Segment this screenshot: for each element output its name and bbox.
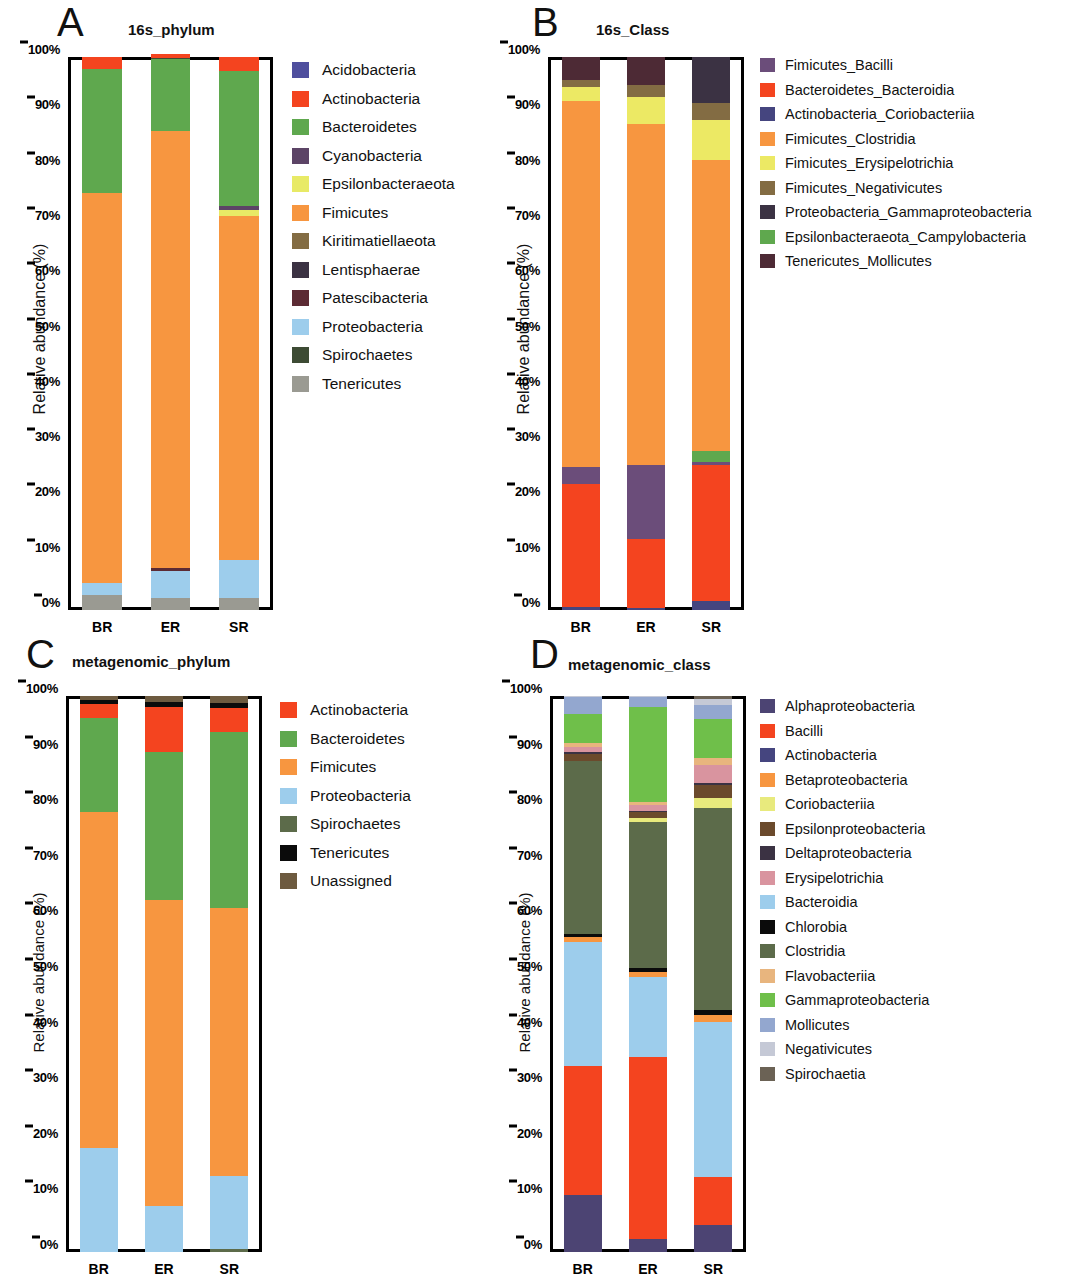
y-tick-mark — [507, 372, 515, 375]
bar-segment — [692, 57, 730, 103]
legend-swatch-icon — [760, 920, 775, 934]
legend-label: Spirochaetes — [322, 346, 412, 364]
y-tick-mark — [509, 958, 517, 961]
y-tick-label: 50% — [33, 959, 66, 974]
bar-segment — [562, 607, 600, 610]
bar-segment — [692, 601, 730, 610]
y-tick-label: 20% — [33, 1125, 66, 1140]
y-tick-mark — [509, 791, 517, 794]
bar-segment — [629, 968, 667, 971]
legend-item: Fimicutes_Clostridia — [760, 127, 1032, 152]
legend-swatch-icon — [280, 759, 297, 775]
y-tick-label: 70% — [517, 847, 550, 862]
x-axis-label-er: ER — [615, 1261, 680, 1277]
legend-label: Betaproteobacteria — [785, 772, 908, 788]
y-tick-label: 60% — [517, 903, 550, 918]
bar-segment — [151, 131, 191, 568]
legend-label: Proteobacteria — [322, 318, 423, 336]
legend-swatch-icon — [292, 319, 309, 335]
legend-swatch-icon — [760, 846, 775, 860]
legend-label: Coriobacteriia — [785, 796, 874, 812]
legend-item: Proteobacteria — [292, 313, 455, 342]
bar-segment — [219, 598, 259, 610]
y-tick-label: 90% — [517, 736, 550, 751]
legend-label: Patescibacteria — [322, 289, 428, 307]
y-tick-mark — [18, 680, 26, 683]
bar-segment — [627, 57, 665, 85]
panel-d: D metagenomic_class Relative abundance (… — [490, 634, 1072, 1268]
bar-br — [562, 57, 600, 610]
y-tick-mark — [507, 151, 515, 154]
bar-segment — [694, 719, 732, 758]
y-tick-mark — [25, 791, 33, 794]
legend-swatch-icon — [292, 233, 309, 249]
bar-sr — [219, 57, 259, 610]
legend-label: Tenericutes — [322, 375, 401, 393]
legend-label: Negativicutes — [785, 1041, 872, 1057]
bar-segment — [629, 1239, 667, 1252]
bar-segment — [564, 754, 602, 761]
y-tick-mark — [500, 41, 508, 44]
bar-segment — [210, 696, 248, 703]
legend-swatch-icon — [760, 699, 775, 713]
y-tick-mark — [27, 483, 35, 486]
bar-segment — [145, 900, 183, 1207]
legend-item: Fimicutes_Erysipelotrichia — [760, 151, 1032, 176]
bar-segment — [692, 462, 730, 465]
legend-item: Gammaproteobacteria — [760, 988, 929, 1013]
legend-label: Bacilli — [785, 723, 823, 739]
legend-item: Spirochaetes — [280, 810, 411, 839]
legend-item: Bacteroidetes — [280, 725, 411, 754]
bar-segment — [627, 539, 665, 608]
y-tick-mark — [20, 41, 28, 44]
legend-item: Kiritimatiellaeota — [292, 227, 455, 256]
legend-label: Gammaproteobacteria — [785, 992, 929, 1008]
y-tick-mark — [509, 846, 517, 849]
bar-segment — [694, 758, 732, 765]
bar-segment — [219, 57, 259, 71]
bar-segment — [210, 732, 248, 909]
x-axis-label-er: ER — [136, 619, 204, 635]
bar-br — [80, 696, 118, 1252]
y-tick-label: 70% — [35, 207, 68, 222]
legend-item: Mollicutes — [760, 1013, 929, 1038]
bar-segment — [629, 818, 667, 822]
y-tick-label: 100% — [510, 681, 550, 696]
bar-segment — [564, 697, 602, 714]
bar-segment — [145, 707, 183, 753]
bar-segment — [627, 124, 665, 465]
legend-label: Lentisphaerae — [322, 261, 420, 279]
legend-item: Bacteroidia — [760, 890, 929, 915]
legend-swatch-icon — [292, 91, 309, 107]
bar-segment — [145, 1206, 183, 1252]
panel-c-bars — [66, 696, 262, 1252]
legend-swatch-icon — [760, 724, 775, 738]
y-tick-label: 10% — [517, 1181, 550, 1196]
legend-swatch-icon — [292, 119, 309, 135]
legend-swatch-icon — [280, 873, 297, 889]
y-tick-label: 80% — [35, 152, 68, 167]
legend-swatch-icon — [760, 969, 775, 983]
x-axis-label-br: BR — [550, 1261, 615, 1277]
y-tick-label: 50% — [35, 318, 68, 333]
panel-d-plot: 0%10%20%30%40%50%60%70%80%90%100% BRERSR — [550, 696, 746, 1252]
panel-a-plot: 0%10%20%30%40%50%60%70%80%90%100% BRERSR — [68, 57, 273, 610]
y-tick-mark — [27, 262, 35, 265]
bar-segment — [694, 1015, 732, 1022]
bar-segment — [629, 977, 667, 1058]
legend-item: Tenericutes_Mollicutes — [760, 249, 1032, 274]
bar-segment — [145, 696, 183, 702]
panel-c-legend: ActinobacteriaBacteroidetesFimicutesProt… — [280, 696, 411, 896]
legend-swatch-icon — [760, 748, 775, 762]
bar-segment — [219, 206, 259, 209]
bar-segment — [692, 465, 730, 601]
legend-swatch-icon — [760, 181, 775, 195]
bar-segment — [80, 718, 118, 812]
y-tick-mark — [27, 96, 35, 99]
legend-label: Epsilonbacteraeota — [322, 175, 455, 193]
bar-segment — [210, 1249, 248, 1252]
y-tick-mark — [509, 735, 517, 738]
legend-item: Coriobacteriia — [760, 792, 929, 817]
legend-swatch-icon — [292, 176, 309, 192]
panel-d-legend: AlphaproteobacteriaBacilliActinobacteria… — [760, 694, 929, 1086]
